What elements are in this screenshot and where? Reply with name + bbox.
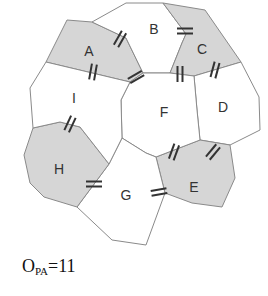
region-label-f: F bbox=[160, 104, 169, 120]
map-coloring-diagram: ABCDEFGHI bbox=[0, 0, 268, 296]
regions-layer bbox=[24, 3, 260, 245]
region-label-h: H bbox=[54, 161, 64, 177]
region-label-i: I bbox=[72, 90, 76, 106]
region-label-g: G bbox=[121, 187, 132, 203]
region-label-d: D bbox=[218, 99, 228, 115]
objective-caption: OPA=11 bbox=[22, 256, 76, 277]
region-label-e: E bbox=[189, 179, 198, 195]
caption-main: O bbox=[22, 256, 35, 276]
region-label-a: A bbox=[84, 43, 94, 59]
caption-value: =11 bbox=[48, 256, 75, 276]
region-label-b: B bbox=[149, 21, 158, 37]
region-label-c: C bbox=[197, 41, 207, 57]
caption-subscript: PA bbox=[35, 265, 48, 277]
